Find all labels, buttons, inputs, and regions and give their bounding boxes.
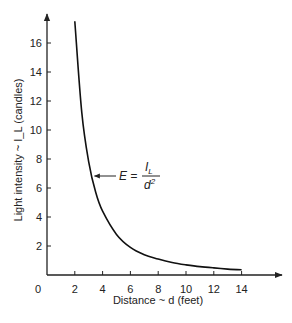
- y-tick-label: 12: [30, 95, 42, 107]
- y-tick-label: 4: [36, 211, 42, 223]
- x-axis-label: Distance ~ d (feet): [113, 294, 203, 306]
- x-tick-label: 4: [100, 283, 106, 295]
- annotation-equation-lhs: E =: [119, 169, 137, 183]
- x-tick-label: 12: [208, 283, 220, 295]
- y-tick-label: 10: [30, 124, 42, 136]
- y-axis-label: Light intensity ~ I_L (candles): [12, 79, 24, 222]
- chart: 2468101214 246810121416 0 E = IL d2 Dist…: [0, 0, 292, 323]
- axes: [47, 14, 282, 275]
- origin-label: 0: [35, 283, 41, 295]
- y-tick-label: 14: [30, 66, 42, 78]
- y-tick-label: 6: [36, 182, 42, 194]
- equation-annotation: E = IL d2: [94, 160, 160, 192]
- curve-series: [75, 21, 242, 270]
- y-ticks: 246810121416: [30, 37, 51, 252]
- y-tick-label: 16: [30, 37, 42, 49]
- annotation-denominator: d2: [144, 177, 156, 192]
- y-tick-label: 2: [36, 240, 42, 252]
- y-tick-label: 8: [36, 153, 42, 165]
- x-tick-label: 14: [235, 283, 247, 295]
- x-tick-label: 2: [72, 283, 78, 295]
- annotation-numerator: IL: [145, 160, 153, 176]
